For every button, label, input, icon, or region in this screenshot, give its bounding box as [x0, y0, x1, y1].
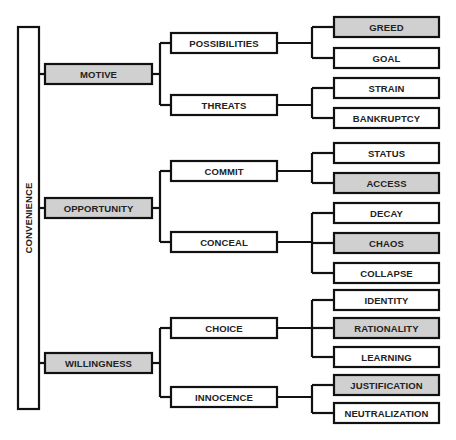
factor-box-possibilities: POSSIBILITIES	[171, 33, 277, 53]
item-box-bankruptcy-label: BANKRUPTCY	[353, 113, 421, 124]
item-box-justification-label: JUSTIFICATION	[350, 380, 422, 391]
boxes: CONVENIENCEMOTIVEPOSSIBILITIESGREEDGOALT…	[18, 17, 439, 423]
item-box-strain-label: STRAIN	[369, 83, 405, 94]
item-box-learning: LEARNING	[334, 347, 439, 367]
factor-box-choice: CHOICE	[171, 318, 277, 338]
convenience-theory-diagram: CONVENIENCEMOTIVEPOSSIBILITIESGREEDGOALT…	[0, 0, 456, 440]
dimension-box-opportunity: OPPORTUNITY	[45, 198, 152, 218]
factor-box-innocence: INNOCENCE	[171, 387, 277, 407]
factor-box-commit-label: COMMIT	[204, 166, 243, 177]
item-box-goal-label: GOAL	[373, 53, 401, 64]
factor-box-threats-label: THREATS	[202, 100, 247, 111]
factor-box-conceal: CONCEAL	[171, 232, 277, 252]
dimension-box-willingness: WILLINGNESS	[45, 353, 152, 373]
item-box-learning-label: LEARNING	[361, 352, 411, 363]
item-box-decay: DECAY	[334, 203, 439, 223]
dimension-box-motive-label: MOTIVE	[80, 69, 117, 80]
item-box-identity: IDENTITY	[334, 290, 439, 310]
item-box-greed-label: GREED	[369, 22, 403, 33]
item-box-chaos: CHAOS	[334, 233, 439, 253]
item-box-identity-label: IDENTITY	[364, 295, 409, 306]
factor-box-innocence-label: INNOCENCE	[195, 392, 253, 403]
dimension-box-willingness-label: WILLINGNESS	[65, 358, 132, 369]
item-box-goal: GOAL	[334, 48, 439, 68]
item-box-access-label: ACCESS	[366, 178, 406, 189]
item-box-rationality-label: RATIONALITY	[354, 323, 419, 334]
item-box-greed: GREED	[334, 17, 439, 37]
root-box-convenience: CONVENIENCE	[18, 27, 39, 409]
item-box-rationality: RATIONALITY	[334, 318, 439, 338]
item-box-chaos-label: CHAOS	[369, 238, 404, 249]
factor-box-choice-label: CHOICE	[205, 323, 243, 334]
item-box-neutralization: NEUTRALIZATION	[334, 403, 439, 423]
root-box-convenience-label: CONVENIENCE	[23, 183, 34, 254]
factor-box-commit: COMMIT	[171, 161, 277, 181]
item-box-bankruptcy: BANKRUPTCY	[334, 108, 439, 128]
factor-box-threats: THREATS	[171, 95, 277, 115]
dimension-box-opportunity-label: OPPORTUNITY	[64, 203, 134, 214]
item-box-status-label: STATUS	[368, 148, 405, 159]
item-box-collapse-label: COLLAPSE	[360, 268, 413, 279]
item-box-status: STATUS	[334, 143, 439, 163]
factor-box-possibilities-label: POSSIBILITIES	[189, 38, 258, 49]
item-box-strain: STRAIN	[334, 78, 439, 98]
item-box-decay-label: DECAY	[370, 208, 403, 219]
dimension-box-motive: MOTIVE	[45, 64, 152, 84]
item-box-neutralization-label: NEUTRALIZATION	[344, 408, 428, 419]
factor-box-conceal-label: CONCEAL	[200, 237, 248, 248]
item-box-access: ACCESS	[334, 173, 439, 193]
item-box-justification: JUSTIFICATION	[334, 375, 439, 395]
item-box-collapse: COLLAPSE	[334, 263, 439, 283]
